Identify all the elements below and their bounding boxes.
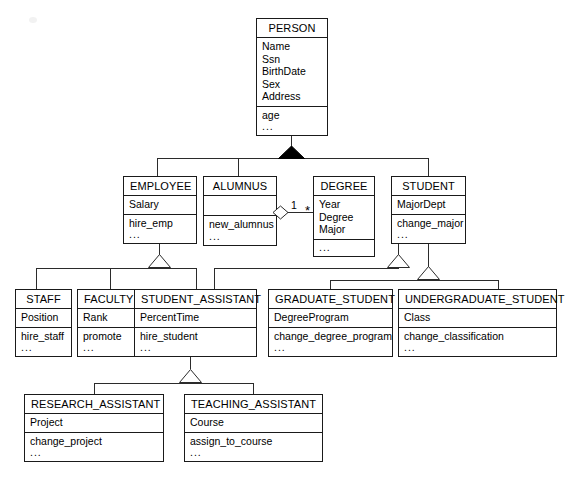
class-attributes-degree: Year Degree Major [314,196,374,240]
attribute: MajorDept [397,198,460,211]
class-attributes-student-assistant: PercentTime [135,309,256,328]
edge-employee-to-student-assistant [196,268,197,289]
class-attributes-alumnus [204,196,276,216]
class-operations-student: change_major ... [392,215,465,244]
class-attributes-staff: Position [16,309,71,328]
class-operations-employee: hire_emp ... [124,215,196,244]
attribute: DegreeProgram [274,311,387,324]
operation: change_degree_program [274,330,387,343]
class-person[interactable]: PERSON Name Ssn BirthDate Sex Address ag… [256,18,328,136]
class-name-employee: EMPLOYEE [124,177,196,196]
class-name-alumnus: ALUMNUS [204,177,276,196]
operations-ellipsis: ... [83,342,132,353]
attribute: PercentTime [140,311,251,324]
operations-ellipsis: ... [140,342,251,353]
attribute: Address [262,90,322,103]
operations-ellipsis: ... [30,447,158,458]
class-name-faculty: FACULTY [78,290,137,309]
edge-student-to-student-assistant [214,268,215,289]
operation: new_alumnus [209,218,271,231]
class-attributes-teaching-assistant: Course [185,414,322,433]
multiplicity-alumnus-end: 1 [291,199,297,211]
operations-ellipsis: ... [404,342,551,353]
attribute: Course [190,416,317,429]
class-graduate-student[interactable]: GRADUATE_STUDENT DegreeProgram change_de… [268,289,393,357]
attribute: Major [319,223,369,236]
class-undergraduate-student[interactable]: UNDERGRADUATE_STUDENT Class change_class… [398,289,557,357]
operations-ellipsis: ... [190,447,317,458]
attribute: Rank [83,311,132,324]
attribute: Salary [129,198,191,211]
class-attributes-undergraduate-student: Class [399,309,556,328]
class-operations-alumnus: new_alumnus ... [204,216,276,245]
class-operations-teaching-assistant: assign_to_course ... [185,433,322,462]
class-operations-student-assistant: hire_student ... [135,328,256,357]
attribute: Year [319,198,369,211]
edge-person-to-alumnus [238,158,239,176]
edge-student-to-graduate [330,280,331,289]
operations-ellipsis: ... [21,342,66,353]
class-operations-faculty: promote ... [78,328,137,357]
edge-employee-to-staff [36,268,37,289]
class-alumnus[interactable]: ALUMNUS new_alumnus ... [203,176,277,246]
generalization-triangle-person [278,146,305,159]
edge-employee-to-faculty [110,268,111,289]
edge-assistant-bus [94,383,253,384]
class-attributes-research-assistant: Project [25,414,163,433]
operations-ellipsis: ... [129,229,191,240]
class-staff[interactable]: STAFF Position hire_staff ... [15,289,72,357]
attribute: Ssn [262,53,322,66]
operations-ellipsis: ... [262,121,322,132]
class-name-teaching-assistant: TEACHING_ASSISTANT [185,395,322,414]
generalization-triangle-assistant [179,369,202,383]
multiplicity-degree-end: * [305,207,310,215]
attribute: Name [262,40,322,53]
aggregation-diamond-alumnus [272,205,289,220]
generalization-triangle-student-assistant [387,254,410,268]
edge-person-to-employee [157,158,158,176]
generalization-triangle-student [417,266,440,280]
operations-ellipsis: ... [209,231,271,242]
class-name-degree: DEGREE [314,177,374,196]
scan-artifact [29,17,37,23]
attribute: BirthDate [262,65,322,78]
edge-student-assistant-stem [190,357,191,369]
class-degree[interactable]: DEGREE Year Degree Major ... [313,176,375,257]
attribute: Sex [262,78,322,91]
operations-ellipsis: ... [274,342,387,353]
edge-assistant-to-teaching [253,383,254,394]
generalization-triangle-employee [148,254,171,268]
class-name-graduate-student: GRADUATE_STUDENT [269,290,392,309]
class-teaching-assistant[interactable]: TEACHING_ASSISTANT Course assign_to_cour… [184,394,323,462]
operation: hire_student [140,330,251,343]
class-faculty[interactable]: FACULTY Rank promote ... [77,289,138,357]
attribute: Position [21,311,66,324]
class-name-research-assistant: RESEARCH_ASSISTANT [25,395,163,414]
class-operations-graduate-student: change_degree_program ... [269,328,392,357]
class-attributes-student: MajorDept [392,196,465,215]
attribute: Class [404,311,551,324]
operations-ellipsis: ... [319,242,369,253]
edge-assistant-to-research [94,383,95,394]
edge-person-to-student [428,158,429,176]
class-student[interactable]: STUDENT MajorDept change_major ... [391,176,466,244]
class-name-staff: STAFF [16,290,71,309]
edge-student-to-undergraduate [498,280,499,289]
class-attributes-employee: Salary [124,196,196,215]
class-operations-research-assistant: change_project ... [25,433,163,462]
class-research-assistant[interactable]: RESEARCH_ASSISTANT Project change_projec… [24,394,164,462]
class-employee[interactable]: EMPLOYEE Salary hire_emp ... [123,176,197,244]
class-operations-undergraduate-student: change_classification ... [399,328,556,357]
class-student-assistant[interactable]: STUDENT_ASSISTANT PercentTime hire_stude… [134,289,257,357]
operation: assign_to_course [190,435,317,448]
class-name-student-assistant: STUDENT_ASSISTANT [135,290,256,309]
edge-student-assistant-bus [214,268,399,269]
class-operations-person: age ... [257,107,327,136]
attribute: Project [30,416,158,429]
attribute: Degree [319,211,369,224]
class-attributes-person: Name Ssn BirthDate Sex Address [257,38,327,107]
class-operations-staff: hire_staff ... [16,328,71,357]
edge-employee-bus [36,268,196,269]
operation: change_classification [404,330,551,343]
uml-class-diagram: 1 * PERSON Name Ssn BirthDate Sex Addres… [0,0,573,477]
